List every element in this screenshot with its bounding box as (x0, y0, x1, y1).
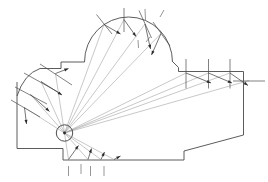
incident-ray-right-1 (65, 73, 187, 133)
reflected-ray-left-1-arrowhead (64, 69, 68, 72)
surface-normal-group (11, 8, 265, 117)
incident-ray-dome-right (65, 34, 162, 134)
sound-source-marker (56, 125, 72, 141)
normal-left-1 (40, 64, 72, 85)
normal-left-3 (15, 87, 47, 104)
incident-ray-dome-top1 (65, 20, 125, 134)
source-point (63, 132, 66, 135)
incident-ray-dome-top2 (65, 24, 146, 133)
normal-dome-right (153, 22, 170, 46)
left-roof-step (40, 62, 85, 69)
incident-ray-floor-3 (65, 133, 102, 160)
incident-ray-right-2 (65, 73, 209, 133)
left-curved-wall (17, 69, 40, 97)
reflected-ray-dome-right-arrowhead (152, 51, 155, 55)
reflected-ray-floor-4-arrowhead (116, 156, 120, 159)
incident-ray-right-4 (65, 81, 250, 134)
outline-walls (17, 62, 244, 161)
reflected-ray-floor-1-arrowhead (75, 146, 79, 150)
dome-tick-3 (138, 40, 139, 48)
reflected-ray-right-3-arrowhead (244, 82, 248, 86)
ray-diagram-canvas (0, 0, 268, 182)
dome-tick-2 (160, 10, 164, 17)
reflected-ray-floor-3-arrowhead (101, 152, 104, 156)
reflected-ray-left-4-arrowhead (25, 120, 28, 124)
dome-arc (85, 17, 173, 62)
building-section-outline (17, 17, 244, 160)
ray-diagram-root (0, 0, 268, 182)
reflected-ray-dome-top1-arrowhead (132, 32, 136, 36)
dome-tick-1 (145, 9, 146, 20)
incident-ray-right-3 (65, 73, 231, 133)
